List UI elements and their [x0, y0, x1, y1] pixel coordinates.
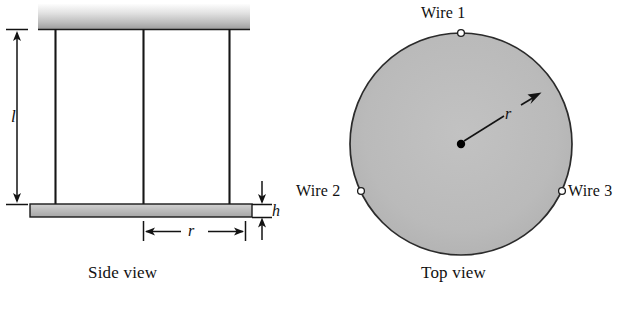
label-radius-r-top: r	[505, 106, 511, 122]
wire-hole-3	[559, 188, 566, 195]
support-ceiling	[38, 4, 250, 30]
dimension-radius-r-side	[144, 221, 246, 241]
label-wire-1: Wire 1	[421, 5, 466, 21]
label-thickness-h: h	[272, 203, 280, 219]
label-length-l: l	[11, 108, 16, 125]
wire-hole-2	[358, 188, 365, 195]
caption-side-view: Side view	[88, 264, 157, 281]
dimension-length-l	[6, 30, 28, 205]
label-radius-r-side: r	[188, 223, 194, 239]
suspension-wires	[56, 29, 230, 204]
disk-plate	[30, 204, 252, 217]
disk-center-dot	[457, 140, 465, 148]
label-wire-3: Wire 3	[568, 183, 613, 199]
caption-top-view: Top view	[421, 264, 486, 281]
wire-hole-1	[458, 30, 465, 37]
dimension-thickness-h	[252, 181, 272, 240]
label-wire-2: Wire 2	[296, 183, 341, 199]
figure-root: l r h Side view r Wire 1 Wire 2 Wire 3 T…	[0, 0, 636, 311]
